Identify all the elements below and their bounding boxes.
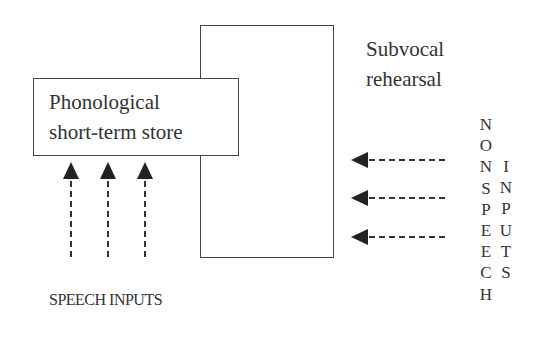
- arrow-left-icon: [351, 229, 368, 245]
- arrow-up-icon: [100, 162, 116, 179]
- arrow-up-icon: [137, 162, 153, 179]
- arrow-left-icon: [351, 190, 368, 206]
- arrow-left-icon: [351, 152, 368, 168]
- arrow-up-icon: [63, 162, 79, 179]
- arrows-layer: [0, 0, 539, 340]
